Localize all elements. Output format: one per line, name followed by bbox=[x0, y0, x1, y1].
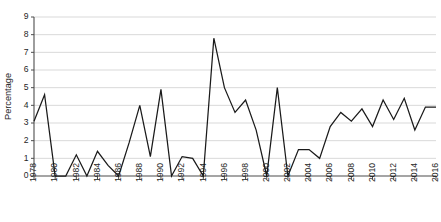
grid-lines bbox=[34, 17, 436, 158]
y-axis-tick-label: 2 bbox=[24, 135, 29, 145]
line-chart: 0123456789 19781980198219841986198819901… bbox=[0, 0, 441, 222]
y-axis-tick-label: 7 bbox=[24, 47, 29, 57]
x-axis-tick-label: 1978 bbox=[28, 163, 38, 182]
y-axis-title-label: Percentage bbox=[3, 73, 13, 120]
x-axis-tick-label: 2004 bbox=[303, 163, 313, 182]
x-axis-tick-label: 1988 bbox=[134, 163, 144, 182]
y-axis-tick-label: 1 bbox=[24, 153, 29, 163]
x-axis-tick-label: 1982 bbox=[71, 163, 81, 182]
y-axis-title: Percentage bbox=[3, 73, 13, 120]
x-axis-tick-label: 2008 bbox=[346, 163, 356, 182]
chart-container: 0123456789 19781980198219841986198819901… bbox=[0, 0, 441, 222]
y-axis-tick-labels: 0123456789 bbox=[24, 11, 29, 180]
x-axis-tick-label: 1990 bbox=[155, 163, 165, 182]
figure-caption bbox=[0, 214, 441, 222]
x-axis-tick-label: 1996 bbox=[219, 163, 229, 182]
y-axis-tick-label: 5 bbox=[24, 82, 29, 92]
x-axis-tick-label: 2010 bbox=[367, 163, 377, 182]
data-series-line bbox=[34, 38, 436, 176]
y-axis-tick-label: 3 bbox=[24, 117, 29, 127]
series-percentage-line bbox=[34, 38, 436, 176]
x-axis-tick-label: 1984 bbox=[92, 163, 102, 182]
x-axis-tick-label: 2016 bbox=[430, 163, 440, 182]
y-axis-tick-label: 6 bbox=[24, 64, 29, 74]
y-axis bbox=[31, 17, 34, 176]
x-axis-tick-label: 2006 bbox=[324, 163, 334, 182]
x-axis-tick-labels: 1978198019821984198619881990199219941996… bbox=[28, 163, 440, 182]
x-axis-tick-label: 2012 bbox=[388, 163, 398, 182]
y-axis-tick-label: 9 bbox=[24, 11, 29, 21]
x-axis-tick-label: 1994 bbox=[198, 163, 208, 182]
x-axis-tick-label: 1998 bbox=[240, 163, 250, 182]
x-axis-tick-label: 2014 bbox=[409, 163, 419, 182]
y-axis-tick-label: 4 bbox=[24, 100, 29, 110]
y-axis-tick-label: 8 bbox=[24, 29, 29, 39]
